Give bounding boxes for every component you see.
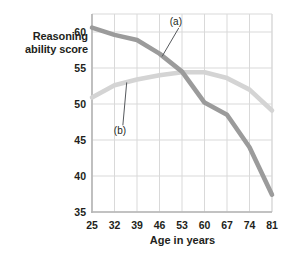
x-axis-tick-label: 25 [81,220,103,230]
reasoning-ability-line-chart: Reasoning ability score Age in years 354… [0,0,289,254]
gridlines [92,14,272,212]
series-annotation-label-a: (a) [170,17,182,27]
y-axis-tick-label: 55 [60,63,86,73]
y-axis-tick-label: 45 [60,135,86,145]
series-annotation-label-b: (b) [114,126,126,136]
y-axis-tick-label: 50 [60,99,86,109]
x-axis-tick-label: 32 [104,220,126,230]
x-axis-tick-label: 60 [194,220,216,230]
x-axis-tick-label: 81 [261,220,283,230]
x-axis-tick-label: 67 [216,220,238,230]
x-axis-tick-label: 39 [126,220,148,230]
x-axis-tick-label: 53 [171,220,193,230]
y-axis-tick-label: 35 [60,207,86,217]
y-axis-tick-label: 60 [60,27,86,37]
x-axis-title: Age in years [92,234,273,246]
y-axis-tick-label: 40 [60,171,86,181]
x-axis-tick-label: 74 [239,220,261,230]
x-axis-tick-label: 46 [149,220,171,230]
